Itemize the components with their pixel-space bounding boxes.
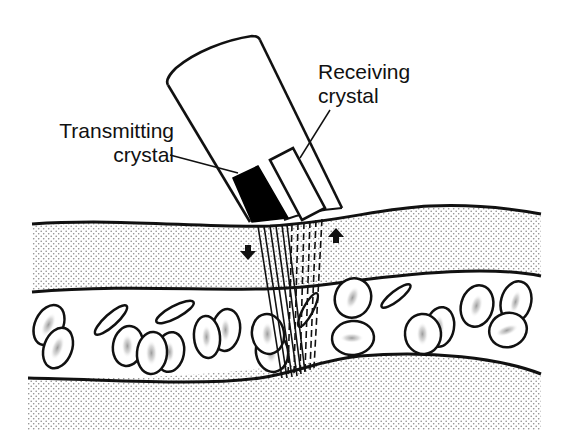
- receiving-crystal-label: Receiving crystal: [318, 60, 418, 108]
- receiving-label-line1: Receiving: [318, 60, 418, 84]
- transmitting-label-line1: Transmitting: [28, 119, 174, 143]
- transmitting-crystal-label: Transmitting crystal: [28, 119, 174, 167]
- receiving-label-line2: crystal: [318, 84, 418, 108]
- transmitting-label-line2: crystal: [28, 143, 174, 167]
- rbc-cell-edge-on: [154, 297, 197, 327]
- rbc-cell: [331, 319, 376, 357]
- rbc-cell-edge-on: [379, 281, 414, 311]
- doppler-probe-diagram: [0, 0, 570, 448]
